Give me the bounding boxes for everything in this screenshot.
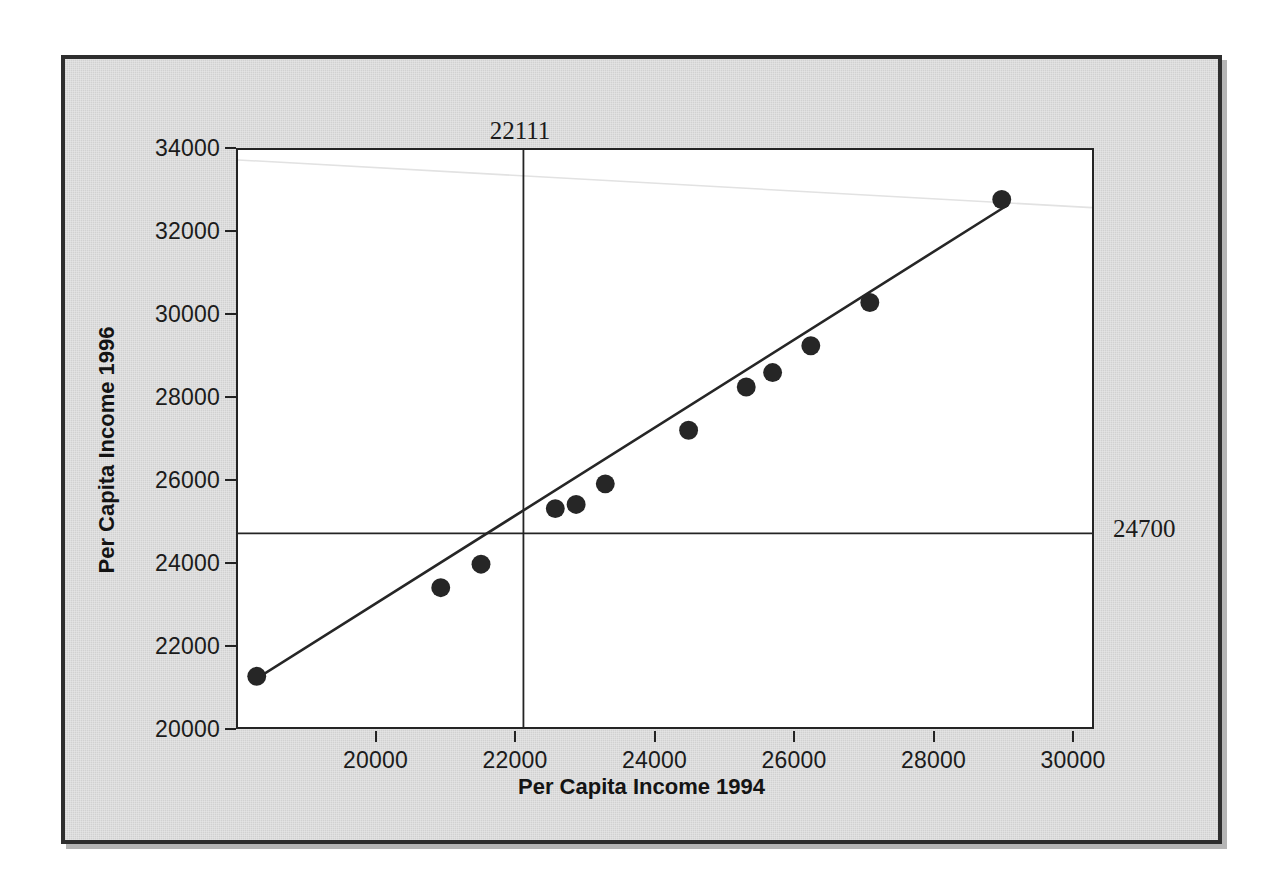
x-axis-tick-mark bbox=[933, 731, 935, 742]
x-axis-title: Per Capita Income 1994 bbox=[65, 774, 1218, 800]
data-point bbox=[860, 293, 879, 312]
y-axis-tick-label: 26000 bbox=[65, 467, 220, 494]
y-axis-tick-mark bbox=[225, 645, 236, 647]
y-axis-tick-mark bbox=[225, 313, 236, 315]
x-axis-tick-label: 28000 bbox=[901, 747, 966, 774]
y-axis-tick-label: 30000 bbox=[65, 301, 220, 328]
vertical-reference-label: 22111 bbox=[490, 117, 551, 145]
x-axis-tick-label: 30000 bbox=[1041, 747, 1106, 774]
x-axis-tick-mark bbox=[1072, 731, 1074, 742]
y-axis-tick-label: 24000 bbox=[65, 550, 220, 577]
x-axis-tick-label: 22000 bbox=[483, 747, 548, 774]
data-point bbox=[679, 421, 698, 440]
y-axis-tick-label: 32000 bbox=[65, 218, 220, 245]
data-point bbox=[763, 363, 782, 382]
y-axis-tick-mark bbox=[225, 230, 236, 232]
y-axis-tick-mark bbox=[225, 562, 236, 564]
data-point bbox=[431, 578, 450, 597]
data-point bbox=[546, 499, 565, 518]
data-point bbox=[801, 336, 820, 355]
data-point bbox=[472, 555, 491, 574]
y-axis-tick-label: 22000 bbox=[65, 633, 220, 660]
data-point bbox=[737, 378, 756, 397]
scan-streak-artifact bbox=[238, 160, 1092, 208]
y-axis-tick-mark bbox=[225, 728, 236, 730]
data-point bbox=[992, 190, 1011, 209]
data-point bbox=[247, 667, 266, 686]
y-axis-tick-label: 28000 bbox=[65, 384, 220, 411]
scatter-plot-svg bbox=[238, 150, 1092, 727]
figure-panel: 2000022000240002600028000300003200034000… bbox=[61, 55, 1222, 844]
data-point bbox=[596, 474, 615, 493]
y-axis-tick-mark bbox=[225, 479, 236, 481]
x-axis-tick-mark bbox=[793, 731, 795, 742]
y-axis-tick-mark bbox=[225, 396, 236, 398]
x-axis-tick-mark bbox=[654, 731, 656, 742]
y-axis-tick-label: 34000 bbox=[65, 135, 220, 162]
y-axis-tick-label: 20000 bbox=[65, 716, 220, 743]
x-axis-tick-mark bbox=[375, 731, 377, 742]
x-axis-tick-label: 24000 bbox=[622, 747, 687, 774]
x-axis-tick-label: 20000 bbox=[343, 747, 408, 774]
x-axis-tick-mark bbox=[514, 731, 516, 742]
x-axis-tick-label: 26000 bbox=[762, 747, 827, 774]
plot-area bbox=[236, 148, 1094, 729]
fitted-line bbox=[252, 205, 1007, 681]
horizontal-reference-label: 24700 bbox=[1113, 515, 1176, 543]
y-axis-tick-mark bbox=[225, 147, 236, 149]
data-point bbox=[567, 495, 586, 514]
y-axis-title: Per Capita Income 1996 bbox=[94, 220, 120, 680]
